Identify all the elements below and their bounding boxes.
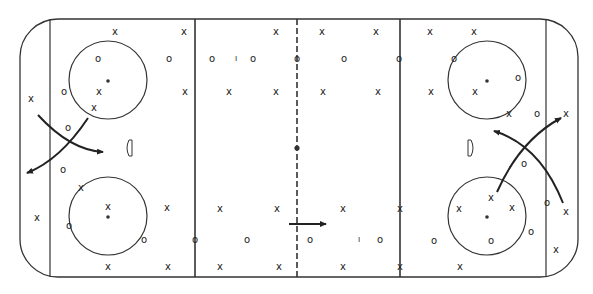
player-x-marker: x <box>34 213 40 223</box>
faceoff-dot-top-right <box>485 79 489 83</box>
player-x-marker: x <box>375 87 381 97</box>
player-o-marker: o <box>95 54 101 64</box>
player-x-marker: x <box>509 203 515 213</box>
player-x-marker: x <box>164 203 170 213</box>
player-x-marker: x <box>563 109 569 119</box>
player-x-marker: x <box>472 87 478 97</box>
player-x-marker: x <box>96 87 102 97</box>
player-o-marker: o <box>521 159 527 169</box>
player-x-marker: x <box>320 87 326 97</box>
player-o-marker: o <box>141 235 147 245</box>
rink-drawing <box>0 0 593 294</box>
player-x-marker: x <box>28 94 34 104</box>
player-x-marker: x <box>397 204 403 214</box>
player-o-marker: o <box>209 54 215 64</box>
faceoff-dot-top-left <box>106 79 110 83</box>
goal-crease-right <box>468 140 473 156</box>
player-o-marker: o <box>250 54 256 64</box>
player-o-marker: o <box>488 236 494 246</box>
player-x-marker: x <box>112 27 118 37</box>
player-o-marker: o <box>544 198 550 208</box>
player-x-marker: x <box>105 262 111 272</box>
player-x-marker: x <box>457 262 463 272</box>
player-x-marker: x <box>78 183 84 193</box>
player-o-marker: o <box>515 73 521 83</box>
player-o-marker: o <box>377 235 383 245</box>
player-o-marker: o <box>341 54 347 64</box>
player-x-marker: x <box>428 87 434 97</box>
player-x-marker: x <box>340 262 346 272</box>
player-x-marker: x <box>506 109 512 119</box>
player-o-marker: o <box>192 235 198 245</box>
player-o-marker: o <box>244 235 250 245</box>
player-o-marker: o <box>61 87 67 97</box>
player-x-marker: x <box>274 204 280 214</box>
player-x-marker: x <box>182 87 188 97</box>
player-x-marker: x <box>105 202 111 212</box>
player-x-marker: x <box>226 87 232 97</box>
player-o-marker: o <box>396 54 402 64</box>
goal-crease-left <box>127 140 132 156</box>
player-x-marker: x <box>165 262 171 272</box>
faceoff-dot-bottom-right <box>485 215 489 219</box>
center-faceoff-dot <box>294 145 299 150</box>
player-x-marker: x <box>488 193 494 203</box>
player-x-marker: x <box>276 262 282 272</box>
player-x-marker: x <box>273 27 279 37</box>
player-x-marker: x <box>91 103 97 113</box>
player-o-marker: o <box>60 165 66 175</box>
player-x-marker: x <box>273 87 279 97</box>
player-x-marker: x <box>181 27 187 37</box>
player-x-marker: x <box>373 27 379 37</box>
player-x-marker: x <box>319 27 325 37</box>
player-o-marker: o <box>528 227 534 237</box>
player-x-marker: x <box>563 207 569 217</box>
official-marker: ı <box>235 55 237 63</box>
player-x-marker: x <box>553 245 559 255</box>
player-o-marker: o <box>451 54 457 64</box>
player-x-marker: x <box>217 204 223 214</box>
hockey-rink-diagram: xxoooxxxxooxxxxooxxxxxoıooooxxxxxxxxoooı… <box>0 0 593 294</box>
player-x-marker: x <box>471 27 477 37</box>
player-o-marker: o <box>65 123 71 133</box>
player-x-marker: x <box>456 204 462 214</box>
player-o-marker: o <box>534 109 540 119</box>
player-o-marker: o <box>166 54 172 64</box>
player-o-marker: o <box>66 221 72 231</box>
left-arrow-1-icon <box>38 115 103 152</box>
player-o-marker: o <box>431 236 437 246</box>
faceoff-dot-bottom-left <box>106 215 110 219</box>
player-o-marker: o <box>294 54 300 64</box>
player-x-marker: x <box>397 262 403 272</box>
player-o-marker: o <box>307 235 313 245</box>
player-x-marker: x <box>340 204 346 214</box>
player-x-marker: x <box>217 262 223 272</box>
player-x-marker: x <box>427 27 433 37</box>
official-marker: ı <box>358 236 360 244</box>
